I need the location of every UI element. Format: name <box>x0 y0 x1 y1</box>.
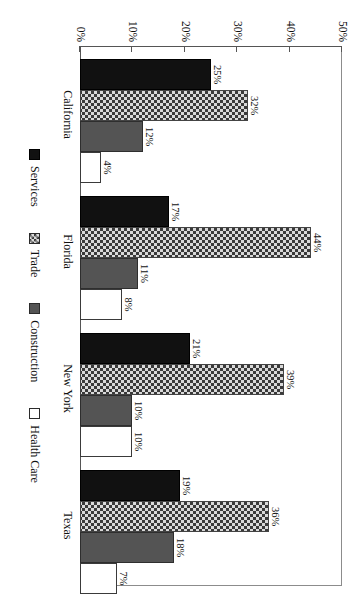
chart-legend: Services Trade Construction Health Care <box>27 46 42 586</box>
legend-label: Construction <box>27 320 42 382</box>
y-axis-label-0: 0% <box>75 0 87 42</box>
legend-label: Trade <box>27 250 42 278</box>
bar-california-construction[interactable]: 12% <box>80 121 143 152</box>
bar-value-label: 17% <box>170 202 181 221</box>
bar-texas-services[interactable]: 19% <box>80 470 180 501</box>
bar-florida-services[interactable]: 17% <box>80 196 169 227</box>
y-axis-label-20: 20% <box>180 0 192 42</box>
bars-layer: 25% 32% 12% 4% 17% 44% 11% 8% <box>80 46 342 586</box>
bar-texas-health-care[interactable]: 7% <box>80 563 117 594</box>
bar-value-label: 10% <box>133 401 144 420</box>
bar-value-label: 25% <box>212 65 223 84</box>
bar-value-label: 10% <box>133 432 144 451</box>
bar-florida-health-care[interactable]: 8% <box>80 289 122 320</box>
bar-value-label: 8% <box>123 298 134 312</box>
bar-value-label: 4% <box>102 161 113 175</box>
bar-value-label: 32% <box>249 96 260 115</box>
bar-value-label: 39% <box>285 370 296 389</box>
bar-florida-construction[interactable]: 11% <box>80 258 138 289</box>
legend-item-health-care[interactable]: Health Care <box>27 408 42 483</box>
bar-value-label: 7% <box>118 572 129 586</box>
y-axis-label-10: 10% <box>127 0 139 42</box>
bar-newyork-services[interactable]: 21% <box>80 333 190 364</box>
bar-newyork-trade[interactable]: 39% <box>80 364 284 395</box>
bar-texas-construction[interactable]: 18% <box>80 532 174 563</box>
legend-label: Health Care <box>27 425 42 483</box>
legend-label: Services <box>27 166 42 207</box>
trade-swatch-icon <box>29 233 40 244</box>
category-label-california: California <box>60 46 75 183</box>
category-label-texas: Texas <box>60 457 75 594</box>
rotated-chart-wrapper: 0% 10% 20% 30% 40% 50% 25% 32% 12% 4% 17… <box>0 0 353 601</box>
bar-value-label: 21% <box>191 339 202 358</box>
bar-texas-trade[interactable]: 36% <box>80 501 269 532</box>
bar-california-services[interactable]: 25% <box>80 59 211 90</box>
health-care-swatch-icon <box>29 408 40 419</box>
y-axis-label-30: 30% <box>232 0 244 42</box>
bar-value-label: 36% <box>270 507 281 526</box>
category-label-florida: Florida <box>60 183 75 320</box>
bar-florida-trade[interactable]: 44% <box>80 227 311 258</box>
bar-value-label: 12% <box>144 127 155 146</box>
bar-newyork-construction[interactable]: 10% <box>80 395 132 426</box>
services-swatch-icon <box>29 149 40 160</box>
bar-california-health-care[interactable]: 4% <box>80 152 101 183</box>
legend-item-construction[interactable]: Construction <box>27 303 42 382</box>
category-label-newyork: New York <box>60 320 75 457</box>
bar-value-label: 18% <box>175 538 186 557</box>
legend-item-trade[interactable]: Trade <box>27 233 42 278</box>
y-axis-label-50: 50% <box>337 0 349 42</box>
bar-california-trade[interactable]: 32% <box>80 90 248 121</box>
legend-item-services[interactable]: Services <box>27 149 42 207</box>
bar-chart: 0% 10% 20% 30% 40% 50% 25% 32% 12% 4% 17… <box>0 0 353 601</box>
bar-value-label: 19% <box>181 476 192 495</box>
bar-value-label: 44% <box>312 233 323 252</box>
bar-value-label: 11% <box>139 264 150 283</box>
y-axis-label-40: 40% <box>285 0 297 42</box>
bar-newyork-health-care[interactable]: 10% <box>80 426 132 457</box>
construction-swatch-icon <box>29 303 40 314</box>
